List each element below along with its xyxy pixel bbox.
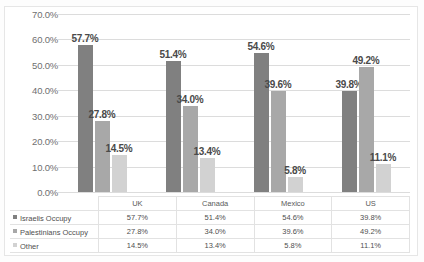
plot-area: 57.7% 27.8% 14.5% 51.4% 34.0% 13.4% — [58, 14, 410, 192]
legend-item-other[interactable]: Other — [10, 239, 99, 253]
chart-container: 70.0% 60.0% 50.0% 40.0% 30.0% 20.0% 10.0… — [0, 0, 424, 262]
data-table: UK Canada Mexico US Israelis Occupy 57.7… — [10, 196, 410, 253]
legend-swatch-icon-palestinians-occupy — [13, 229, 17, 233]
bar-canada-other[interactable]: 13.4% — [200, 158, 215, 192]
y-tick-60: 60.0% — [32, 34, 58, 45]
cell-other-mexico: 5.8% — [254, 239, 332, 253]
bar-label-uk-other: 14.5% — [106, 143, 133, 154]
table-header-canada: Canada — [176, 197, 254, 211]
bar-us-palestinians-occupy[interactable]: 49.2% — [359, 67, 374, 192]
bar-label-mexico-israelis-occupy: 54.6% — [248, 41, 275, 52]
table-row: Other 14.5% 13.4% 5.8% 11.1% — [10, 239, 410, 253]
bar-label-canada-other: 13.4% — [194, 146, 221, 157]
bar-label-mexico-palestinians-occupy: 39.6% — [265, 79, 292, 90]
bar-group-uk: 57.7% 27.8% 14.5% — [58, 14, 146, 192]
bar-groups: 57.7% 27.8% 14.5% 51.4% 34.0% 13.4% — [58, 14, 410, 192]
legend-label-palestinians-occupy: Palestinians Occupy — [20, 227, 88, 236]
legend-item-israelis-occupy[interactable]: Israelis Occupy — [10, 211, 99, 225]
bar-uk-other[interactable]: 14.5% — [112, 155, 127, 192]
legend-label-other: Other — [20, 241, 39, 250]
table-row: Israelis Occupy 57.7% 51.4% 54.6% 39.8% — [10, 211, 410, 225]
bar-label-us-other: 11.1% — [370, 152, 396, 163]
y-tick-40: 40.0% — [32, 85, 58, 96]
y-tick-30: 30.0% — [32, 110, 58, 121]
table-header-uk: UK — [99, 197, 177, 211]
bar-label-canada-israelis-occupy: 51.4% — [160, 49, 187, 60]
bar-label-uk-palestinians-occupy: 27.8% — [89, 109, 116, 120]
bar-us-israelis-occupy[interactable]: 39.8% — [342, 91, 357, 192]
cell-palestinians-mexico: 39.6% — [254, 225, 332, 239]
cell-palestinians-uk: 27.8% — [99, 225, 177, 239]
legend-swatch-icon-other — [13, 243, 17, 247]
bar-label-uk-israelis-occupy: 57.7% — [72, 33, 99, 44]
bar-group-mexico: 54.6% 39.6% 5.8% — [234, 14, 322, 192]
table-header-us: US — [332, 197, 410, 211]
table-row: Palestinians Occupy 27.8% 34.0% 39.6% 49… — [10, 225, 410, 239]
legend-item-palestinians-occupy[interactable]: Palestinians Occupy — [10, 225, 99, 239]
y-axis: 70.0% 60.0% 50.0% 40.0% 30.0% 20.0% 10.0… — [14, 14, 58, 192]
y-tick-70: 70.0% — [32, 9, 58, 20]
table-corner-cell — [10, 197, 99, 211]
cell-palestinians-us: 49.2% — [332, 225, 410, 239]
y-tick-50: 50.0% — [32, 59, 58, 70]
table-header-row: UK Canada Mexico US — [10, 197, 410, 211]
bar-mexico-palestinians-occupy[interactable]: 39.6% — [271, 91, 286, 192]
y-tick-10: 10.0% — [32, 161, 58, 172]
cell-israelis-uk: 57.7% — [99, 211, 177, 225]
cell-other-uk: 14.5% — [99, 239, 177, 253]
bar-group-us: 39.8% 49.2% 11.1% — [322, 14, 410, 192]
cell-other-us: 11.1% — [332, 239, 410, 253]
bar-label-us-palestinians-occupy: 49.2% — [353, 55, 380, 66]
legend-label-israelis-occupy: Israelis Occupy — [20, 213, 71, 222]
bar-mexico-other[interactable]: 5.8% — [288, 177, 303, 192]
cell-palestinians-canada: 34.0% — [176, 225, 254, 239]
bar-label-canada-palestinians-occupy: 34.0% — [177, 94, 204, 105]
bar-label-mexico-other: 5.8% — [284, 165, 306, 176]
table-header-mexico: Mexico — [254, 197, 332, 211]
cell-other-canada: 13.4% — [176, 239, 254, 253]
legend-swatch-icon-israelis-occupy — [13, 215, 17, 219]
cell-israelis-us: 39.8% — [332, 211, 410, 225]
gridline-0 — [58, 192, 410, 193]
bar-canada-israelis-occupy[interactable]: 51.4% — [166, 61, 181, 192]
bar-group-canada: 51.4% 34.0% 13.4% — [146, 14, 234, 192]
y-tick-20: 20.0% — [32, 136, 58, 147]
bar-uk-palestinians-occupy[interactable]: 27.8% — [95, 121, 110, 192]
bar-mexico-israelis-occupy[interactable]: 54.6% — [254, 53, 269, 192]
cell-israelis-canada: 51.4% — [176, 211, 254, 225]
bar-us-other[interactable]: 11.1% — [376, 164, 391, 192]
cell-israelis-mexico: 54.6% — [254, 211, 332, 225]
